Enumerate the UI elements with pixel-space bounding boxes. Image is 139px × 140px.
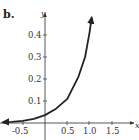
y-tick-label: 0.3 xyxy=(28,52,42,62)
curve-line xyxy=(3,17,92,122)
y-tick-label: 0.4 xyxy=(28,30,42,40)
y-tick-label: 0.1 xyxy=(28,96,42,106)
y-tick-label: 0.2 xyxy=(28,74,42,84)
x-tick-label: 1.0 xyxy=(83,126,97,136)
x-tick-label: 0.5 xyxy=(61,126,75,136)
x-tick-label: 1.5 xyxy=(106,126,120,136)
x-tick-label: -0.5 xyxy=(12,126,28,136)
chart: -0.5 0.5 1.0 1.5 0.1 0.2 0.3 0.4 y x xyxy=(0,0,139,140)
y-axis-label: y xyxy=(40,9,46,18)
x-axis-label: x xyxy=(135,121,139,130)
